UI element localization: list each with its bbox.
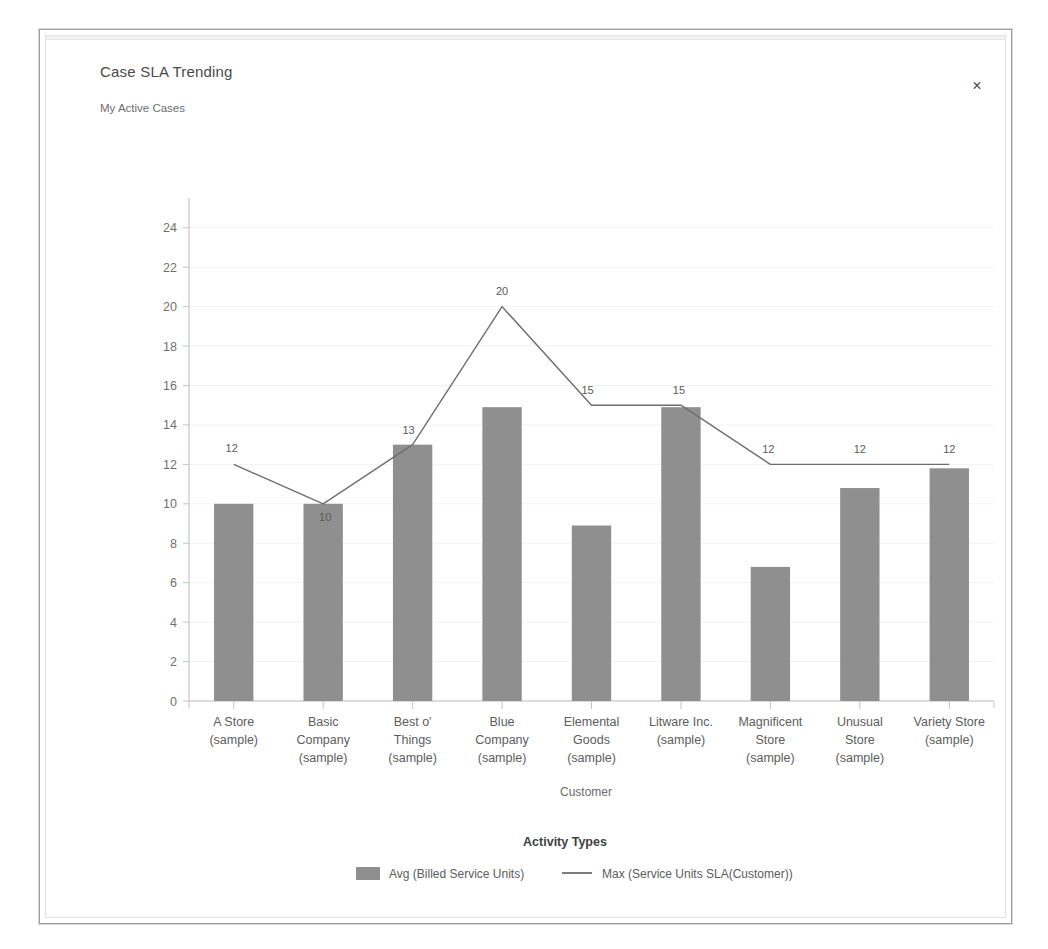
x-axis-category-line: Goods [573, 733, 610, 747]
x-axis-category-label: A Store(sample) [209, 715, 258, 747]
x-axis-category-line: Store [755, 733, 785, 747]
bar[interactable] [661, 407, 700, 701]
x-axis-category-line: Blue [490, 715, 515, 729]
x-axis-category-label: BasicCompany(sample) [296, 715, 350, 765]
y-tick-label: 20 [163, 300, 177, 314]
data-label: 12 [943, 443, 955, 455]
x-axis-category-line: (sample) [299, 751, 348, 765]
y-tick-label: 22 [163, 261, 177, 275]
legend-title: Activity Types [523, 835, 607, 849]
screen-root: Case SLA Trending My Active Cases × 0246… [0, 0, 1048, 949]
y-tick-label: 8 [170, 537, 177, 551]
bar[interactable] [482, 407, 521, 701]
data-label: 20 [496, 285, 508, 297]
x-axis-category-line: Litware Inc. [649, 715, 713, 729]
y-tick-label: 12 [163, 458, 177, 472]
x-axis-category-line: Variety Store [914, 715, 985, 729]
x-axis-category-line: A Store [213, 715, 254, 729]
bar[interactable] [303, 504, 342, 701]
x-axis-title: Customer [560, 785, 612, 799]
x-axis-category-line: Elemental [564, 715, 620, 729]
x-axis-category-line: Company [475, 733, 529, 747]
trend-line[interactable] [234, 307, 950, 504]
x-axis-category-label: Best o'Things(sample) [388, 715, 437, 765]
x-axis-category-label: MagnificentStore(sample) [738, 715, 802, 765]
data-label: 15 [673, 384, 685, 396]
y-tick-label: 2 [170, 655, 177, 669]
bar[interactable] [214, 504, 253, 701]
y-tick-label: 18 [163, 340, 177, 354]
y-tick-label: 4 [170, 616, 177, 630]
x-axis-category-line: Basic [308, 715, 339, 729]
data-label: 12 [762, 443, 774, 455]
x-axis-category-label: Litware Inc.(sample) [649, 715, 713, 747]
bar[interactable] [751, 567, 790, 701]
chart-dialog: Case SLA Trending My Active Cases × 0246… [39, 29, 1012, 924]
y-tick-label: 10 [163, 497, 177, 511]
y-tick-label: 6 [170, 576, 177, 590]
page-title: Case SLA Trending [100, 63, 233, 80]
bar[interactable] [393, 445, 432, 701]
chart-canvas: 024681012141618202224121013201515121212A… [46, 146, 1005, 916]
bar[interactable] [572, 525, 611, 701]
x-axis-category-label: BlueCompany(sample) [475, 715, 529, 765]
x-axis-category-line: (sample) [388, 751, 437, 765]
x-axis-category-line: Store [845, 733, 875, 747]
x-axis-category-line: Unusual [837, 715, 883, 729]
legend-item-label-bar[interactable]: Avg (Billed Service Units) [389, 867, 524, 881]
bar[interactable] [840, 488, 879, 701]
x-axis-category-label: ElementalGoods(sample) [564, 715, 620, 765]
dialog-titlebar [46, 36, 1005, 40]
y-tick-label: 16 [163, 379, 177, 393]
x-axis-category-line: (sample) [746, 751, 795, 765]
data-label: 10 [319, 511, 331, 523]
x-axis-category-label: UnusualStore(sample) [836, 715, 885, 765]
data-label: 12 [854, 443, 866, 455]
bar[interactable] [930, 468, 969, 701]
x-axis-category-line: (sample) [567, 751, 616, 765]
legend-item-label-line[interactable]: Max (Service Units SLA(Customer)) [602, 867, 793, 881]
x-axis-category-line: (sample) [478, 751, 527, 765]
x-axis-category-line: (sample) [925, 733, 974, 747]
x-axis-category-line: Magnificent [738, 715, 802, 729]
close-icon[interactable]: × [964, 73, 990, 99]
x-axis-category-label: Variety Store(sample) [914, 715, 985, 747]
x-axis-category-line: (sample) [209, 733, 258, 747]
legend-swatch-bar[interactable] [356, 867, 380, 880]
y-tick-label: 0 [170, 695, 177, 709]
x-axis-category-line: Things [394, 733, 432, 747]
y-tick-label: 14 [163, 418, 177, 432]
data-label: 12 [226, 442, 238, 454]
chart-svg: 024681012141618202224121013201515121212A… [46, 146, 1005, 916]
x-axis-category-line: (sample) [657, 733, 706, 747]
chart-subtitle: My Active Cases [100, 102, 185, 114]
y-tick-label: 24 [163, 221, 177, 235]
data-label: 15 [581, 384, 593, 396]
dialog-inner-panel: Case SLA Trending My Active Cases × 0246… [45, 35, 1006, 918]
data-label: 13 [402, 424, 414, 436]
x-axis-category-line: Best o' [394, 715, 432, 729]
x-axis-category-line: Company [296, 733, 350, 747]
x-axis-category-line: (sample) [836, 751, 885, 765]
